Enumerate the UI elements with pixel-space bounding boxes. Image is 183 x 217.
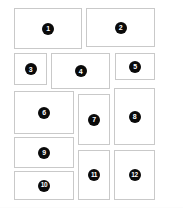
card-number-badge: 5 bbox=[129, 61, 141, 73]
footer-divider bbox=[0, 207, 183, 208]
card-number-badge: 12 bbox=[129, 169, 141, 181]
card-12[interactable]: 12 bbox=[114, 150, 155, 200]
card-number-badge: 2 bbox=[115, 22, 127, 34]
card-1[interactable]: 1 bbox=[14, 8, 82, 49]
card-10[interactable]: 10 bbox=[14, 171, 74, 200]
card-number-badge: 11 bbox=[88, 169, 100, 181]
card-number-badge: 9 bbox=[38, 147, 50, 159]
card-number-badge: 3 bbox=[25, 63, 37, 75]
card-3[interactable]: 3 bbox=[14, 53, 47, 85]
card-5[interactable]: 5 bbox=[115, 53, 155, 80]
card-number-badge: 6 bbox=[38, 107, 50, 119]
card-6[interactable]: 6 bbox=[14, 91, 74, 134]
card-number-badge: 4 bbox=[75, 65, 87, 77]
card-number-badge: 8 bbox=[129, 111, 141, 123]
card-11[interactable]: 11 bbox=[78, 150, 110, 200]
card-9[interactable]: 9 bbox=[14, 137, 74, 168]
card-number-badge: 7 bbox=[88, 114, 100, 126]
card-grid-canvas: 123456789101112 bbox=[0, 0, 183, 217]
card-8[interactable]: 8 bbox=[114, 88, 155, 145]
card-2[interactable]: 2 bbox=[86, 8, 155, 47]
card-4[interactable]: 4 bbox=[51, 53, 110, 89]
card-number-badge: 10 bbox=[38, 180, 50, 192]
card-7[interactable]: 7 bbox=[78, 94, 110, 145]
card-number-badge: 1 bbox=[42, 23, 54, 35]
